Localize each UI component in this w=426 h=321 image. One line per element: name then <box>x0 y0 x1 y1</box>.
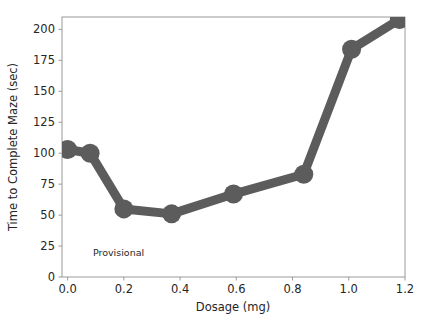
data-point-marker <box>342 40 361 59</box>
data-point-marker <box>81 144 100 163</box>
y-tick-label: 175 <box>33 53 55 67</box>
x-tick-label: 1.2 <box>396 282 414 296</box>
y-tick-label: 125 <box>33 115 55 129</box>
y-tick-label: 25 <box>40 239 55 253</box>
x-tick-label: 0.8 <box>283 282 301 296</box>
y-tick-label: 200 <box>33 22 55 36</box>
x-tick-label: 0.2 <box>115 282 133 296</box>
x-tick-label: 1.0 <box>340 282 358 296</box>
x-tick-label: 0.4 <box>171 282 189 296</box>
y-tick-label: 50 <box>40 208 55 222</box>
annotation-provisional: Provisional <box>93 247 144 258</box>
y-tick-label: 150 <box>33 84 55 98</box>
y-tick-label: 0 <box>48 270 55 284</box>
data-point-marker <box>114 199 133 218</box>
x-tick-label: 0.6 <box>227 282 245 296</box>
line-chart: 0.00.20.40.60.81.01.2 025507510012515017… <box>0 0 426 321</box>
x-tick-label: 0.0 <box>58 282 76 296</box>
data-point-marker <box>224 185 243 204</box>
y-tick-label: 100 <box>33 146 55 160</box>
chart-figure: 0.00.20.40.60.81.01.2 025507510012515017… <box>0 0 426 321</box>
y-axis-title: Time to Complete Maze (sec) <box>6 63 20 232</box>
y-tick-label: 75 <box>40 177 55 191</box>
data-point-marker <box>162 204 181 223</box>
data-point-marker <box>294 165 313 184</box>
x-axis-title: Dosage (mg) <box>196 300 270 314</box>
